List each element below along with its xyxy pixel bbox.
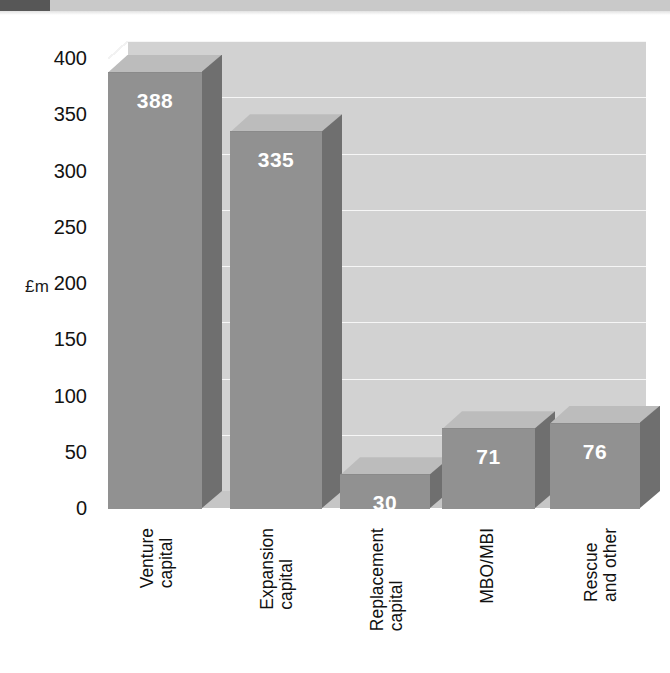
y-tick-label: 150 xyxy=(25,329,87,349)
gridline xyxy=(128,322,646,323)
x-category-label-line: Rescue xyxy=(582,528,601,602)
x-category-label: MBO/MBI xyxy=(478,528,497,604)
x-category-label-line: Venture xyxy=(138,528,157,588)
y-axis-title: £m xyxy=(25,277,49,297)
gridline xyxy=(128,41,646,42)
gridline xyxy=(128,97,646,98)
gridline-side xyxy=(108,435,128,453)
gridline-side xyxy=(108,41,128,59)
gridline-side xyxy=(108,322,128,340)
y-tick-label: 0 xyxy=(25,498,87,518)
gridline-side xyxy=(108,379,128,397)
gridline xyxy=(128,210,646,211)
x-category-label-line: MBO/MBI xyxy=(478,528,497,604)
gridline-side xyxy=(108,210,128,228)
y-tick-label: 350 xyxy=(25,104,87,124)
x-category-label: Expansioncapital xyxy=(258,528,296,610)
x-category-label-line: and other xyxy=(601,528,620,602)
gridline xyxy=(128,154,646,155)
y-tick-label: 400 xyxy=(25,48,87,68)
x-category-label: Replacementcapital xyxy=(368,528,406,631)
y-tick-label: 300 xyxy=(25,161,87,181)
gridline xyxy=(128,266,646,267)
gridline xyxy=(128,379,646,380)
x-category-label-line: Expansion xyxy=(258,528,277,610)
y-tick-label: 100 xyxy=(25,386,87,406)
x-category-label-line: capital xyxy=(277,528,296,610)
x-category-label: Rescueand other xyxy=(582,528,620,602)
gridline-side xyxy=(108,266,128,284)
y-tick-label: 250 xyxy=(25,217,87,237)
x-category-label: Venturecapital xyxy=(138,528,176,588)
y-axis-tick-labels: 400350300250200150100500 xyxy=(25,0,87,673)
gridline-side xyxy=(108,154,128,172)
plot-floor xyxy=(108,491,646,508)
gridline-side xyxy=(108,97,128,115)
y-tick-label: 50 xyxy=(25,442,87,462)
x-category-label-line: capital xyxy=(387,528,406,631)
chart-page: 400350300250200150100500 £m 388335307176… xyxy=(0,0,670,673)
gridline xyxy=(128,435,646,436)
x-category-label-line: capital xyxy=(157,528,176,588)
x-category-label-line: Replacement xyxy=(368,528,387,631)
bar-chart: 400350300250200150100500 £m 388335307176… xyxy=(0,0,670,673)
